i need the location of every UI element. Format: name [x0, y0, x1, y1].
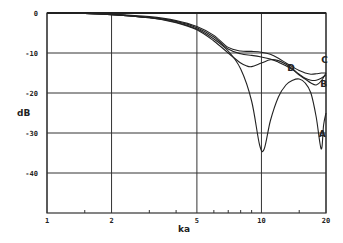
- curve-label-d: D: [287, 63, 294, 73]
- y-tick-label: -10: [25, 50, 38, 58]
- curve-label-a: A: [319, 129, 326, 139]
- y-tick-label: 0: [34, 10, 38, 18]
- tick-labels: 12510200-10-20-30-40: [25, 10, 330, 226]
- plot-frame: [47, 13, 326, 213]
- x-tick-label: 2: [109, 217, 113, 225]
- line-chart: 12510200-10-20-30-40 ABCD ka dB: [0, 0, 343, 243]
- x-tick-label: 5: [195, 217, 199, 225]
- curve-b: [47, 13, 326, 85]
- y-axis-label: dB: [17, 108, 30, 118]
- y-tick-label: -40: [25, 170, 38, 178]
- curve-label-b: B: [320, 79, 327, 89]
- x-tick-label: 1: [45, 217, 49, 225]
- y-tick-label: -30: [25, 130, 38, 138]
- curves: [47, 13, 326, 152]
- x-axis-label: ka: [178, 224, 190, 234]
- curve-a: [47, 13, 326, 152]
- grid-lines: [47, 13, 326, 213]
- x-tick-label: 10: [257, 217, 265, 225]
- curve-labels: ABCD: [287, 55, 328, 139]
- y-tick-label: -20: [25, 90, 38, 98]
- x-tick-label: 20: [322, 217, 330, 225]
- curve-label-c: C: [321, 55, 328, 65]
